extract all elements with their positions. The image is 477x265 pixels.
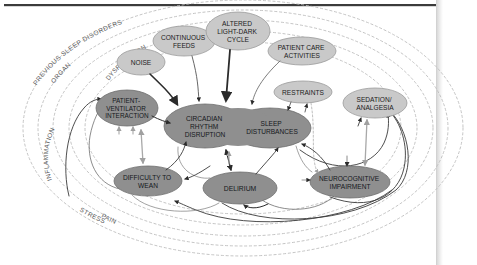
node-patient-ventilator-interaction[interactable]: PATIENT- VENTILATOR INTERACTION — [96, 90, 158, 126]
figure-page: PREVIOUS SLEEP DISORDERS ORGAN DYSFUNCTI… — [0, 0, 477, 265]
node-label-restraints: RESTRAINTS — [282, 89, 324, 96]
node-patient-care-activities[interactable]: PATIENT CARE ACTIVITIES — [268, 37, 336, 65]
top-rule — [4, 4, 436, 6]
node-label-patient-care-activities: PATIENT CARE ACTIVITIES — [278, 44, 327, 59]
node-restraints[interactable]: RESTRAINTS — [274, 81, 332, 103]
node-label-circadian-rhythm-disruption: CIRCADIAN RHYTHM DISRUPTION — [185, 115, 226, 138]
diagram-canvas: PREVIOUS SLEEP DISORDERS ORGAN DYSFUNCTI… — [0, 0, 477, 265]
node-sedation-analgesia[interactable]: SEDATION/ ANALGESIA — [343, 88, 407, 118]
node-altered-light-dark-cycle[interactable]: ALTERED LIGHT-DARK CYCLE — [206, 12, 270, 50]
page-edge-shadow — [437, 0, 443, 265]
node-label-delirium: DELIRIUM — [224, 185, 257, 192]
node-label-sedation-analgesia: SEDATION/ ANALGESIA — [356, 96, 394, 111]
node-delirium[interactable]: DELIRIUM — [203, 172, 277, 204]
page-edge-line — [436, 0, 437, 265]
node-neurocognitive-impairment[interactable]: NEUROCOGNITIVE IMPAIRMENT — [310, 166, 390, 198]
node-label-noise: NOISE — [131, 59, 152, 66]
node-noise[interactable]: NOISE — [117, 49, 165, 75]
node-difficulty-to-wean[interactable]: DIFFICULTY TO WEAN — [114, 166, 182, 196]
